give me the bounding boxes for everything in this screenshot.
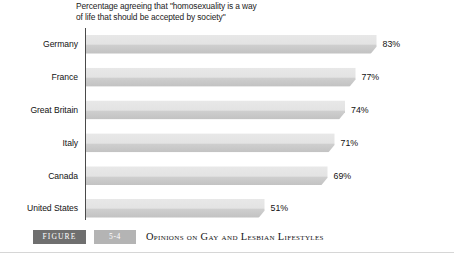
bar-row: Italy71% [0,126,454,159]
bar-fill [86,68,356,87]
figure-container: Percentage agreeing that "homosexuality … [0,0,454,263]
figure-number-badge: 5-4 [94,230,136,244]
bar-row: Canada69% [0,159,454,192]
bar-fill [86,166,328,185]
bar-value-label: 69% [334,171,352,181]
bar [86,68,356,87]
bar [86,133,335,152]
bar-fill [86,35,377,54]
category-label: Italy [0,138,78,148]
bar-row: France77% [0,61,454,94]
bar-value-label: 71% [341,138,359,148]
bar-series: Germany83%France77%Great Britain74%Italy… [0,26,454,223]
bar-fill [86,133,335,152]
bar [86,199,265,218]
figure-label-badge: FIGURE [33,230,86,244]
bar [86,35,377,54]
bar-fill [86,199,265,218]
bar [86,100,345,119]
bar-value-label: 74% [351,105,369,115]
bar-value-label: 51% [271,203,289,213]
category-label: Great Britain [0,105,78,115]
bar [86,166,328,185]
category-label: Canada [0,171,78,181]
bar-fill [86,100,345,119]
bar-row: Germany83% [0,28,454,61]
bar-row: Great Britain74% [0,94,454,127]
bar-value-label: 83% [383,39,401,49]
figure-caption-title: Opinions on Gay and Lesbian Lifestyles [146,230,324,244]
category-label: Germany [0,39,78,49]
category-label: United States [0,203,78,213]
bar-value-label: 77% [362,72,380,82]
bar-row: United States51% [0,192,454,225]
figure-caption-bar: FIGURE 5-4 Opinions on Gay and Lesbian L… [0,230,454,246]
plot-area: Germany83%France77%Great Britain74%Italy… [0,26,454,223]
caption-divider [0,252,454,253]
chart-title: Percentage agreeing that "homosexuality … [76,1,376,22]
category-label: France [0,72,78,82]
